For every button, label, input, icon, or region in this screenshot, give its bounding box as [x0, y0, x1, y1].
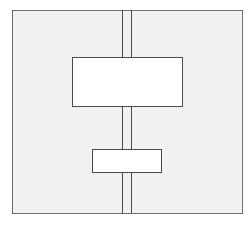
- lower-block: [92, 149, 162, 173]
- shaft-left-line: [122, 10, 123, 213]
- upper-block: [72, 57, 183, 107]
- shaft-right-line: [131, 10, 132, 213]
- outer-frame: [12, 10, 243, 214]
